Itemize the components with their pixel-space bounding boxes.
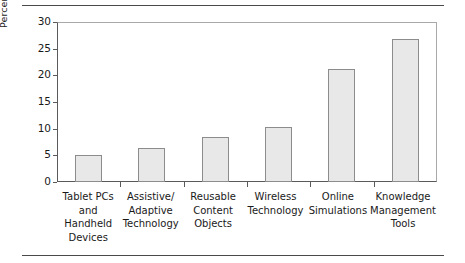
x-axis-tick-mark (120, 182, 121, 187)
x-axis-category-label-line: Technology (245, 204, 305, 218)
x-axis-category-label: ReusableContentObjects (182, 190, 244, 244)
x-axis-category-label: KnowledgeManagementTools (369, 190, 437, 244)
x-axis-category-labels: Tablet PCsandHandheldDevicesAssistive/Ad… (57, 190, 437, 244)
x-axis-category-label-line: Tools (370, 217, 436, 231)
x-axis-category-label-line: and (58, 204, 118, 218)
x-axis-category-label: OnlineSimulations (307, 190, 369, 244)
bar-slot (374, 22, 437, 182)
x-axis-tick-mark (310, 182, 311, 187)
y-axis: 051015202530 (0, 22, 57, 182)
bar-slot (57, 22, 120, 182)
bar-series (57, 22, 437, 182)
y-axis-tick-label: 20 (38, 68, 51, 80)
x-axis-category-label-line: Content (183, 204, 243, 218)
x-axis-category-label-line: Reusable (183, 190, 243, 204)
x-axis-category-label-line: Devices (58, 231, 118, 245)
x-axis-category-label-line: Objects (183, 217, 243, 231)
x-axis-tick-mark (247, 182, 248, 187)
x-axis-tick-mark (374, 182, 375, 187)
x-axis-category-label-line: Knowledge (370, 190, 436, 204)
bar[interactable] (265, 127, 292, 182)
x-axis-category-label-line: Handheld (58, 217, 118, 231)
x-axis-category-label-line: Online (308, 190, 368, 204)
x-axis-category-label-line: Technology (120, 217, 180, 231)
y-axis-tick-label: 5 (44, 148, 51, 160)
x-axis-category-label: WirelessTechnology (244, 190, 306, 244)
x-axis-tick-mark (184, 182, 185, 187)
x-axis-tick-marks (57, 182, 437, 187)
x-axis-category-label-line: Adaptive (120, 204, 180, 218)
bar-slot (184, 22, 247, 182)
x-axis-category-label: Assistive/AdaptiveTechnology (119, 190, 181, 244)
x-axis-category-label: Tablet PCsandHandheldDevices (57, 190, 119, 244)
bar-chart-figure: Percent of Respondents 051015202530 Tabl… (0, 0, 465, 263)
y-axis-tick-label: 25 (38, 42, 51, 54)
bar[interactable] (75, 155, 102, 182)
bar[interactable] (138, 148, 165, 182)
bar-slot (247, 22, 310, 182)
x-axis-category-label-line: Tablet PCs (58, 190, 118, 204)
y-axis-tick-label: 0 (44, 175, 51, 187)
top-horizontal-rule (22, 5, 444, 6)
y-axis-tick-label: 15 (38, 95, 51, 107)
bottom-horizontal-rule (22, 255, 444, 256)
y-axis-tick-label: 30 (38, 15, 51, 27)
x-axis-category-label-line: Management (370, 204, 436, 218)
x-axis-category-label-line: Assistive/ (120, 190, 180, 204)
x-axis-category-label-line: Wireless (245, 190, 305, 204)
x-axis-category-label-line: Simulations (308, 204, 368, 218)
bar[interactable] (202, 137, 229, 182)
y-axis-tick-label: 10 (38, 122, 51, 134)
bar[interactable] (392, 39, 419, 182)
bar[interactable] (328, 69, 355, 182)
bar-slot (120, 22, 183, 182)
bar-slot (310, 22, 373, 182)
